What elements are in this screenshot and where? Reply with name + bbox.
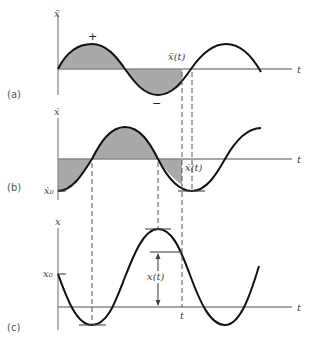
panel-b-initial-label: ẋ₀ xyxy=(44,185,54,196)
panel-b-y-axis-label: ẋ xyxy=(54,106,60,117)
panel-b-panel-label: (b) xyxy=(7,182,21,193)
panel-c: x(t) x t t x₀ (c) xyxy=(7,216,302,333)
panel-c-time-marker-label: t xyxy=(180,310,185,321)
panel-a-panel-label: (a) xyxy=(7,89,21,100)
panel-a-plus-sign: + xyxy=(88,30,97,43)
panel-c-panel-label: (c) xyxy=(7,322,20,333)
panel-c-curve-label: x(t) xyxy=(147,271,165,282)
panel-c-y-axis-label: x xyxy=(55,216,61,227)
panel-a: ẍ t + − ẍ(t) (a) xyxy=(7,8,302,110)
arrow-up-icon xyxy=(156,253,161,259)
panel-a-curve-label: ẍ(t) xyxy=(168,51,186,62)
panel-a-t-label: t xyxy=(297,64,302,75)
panel-b-t-label: t xyxy=(297,154,302,165)
arrow-down-icon xyxy=(156,300,161,306)
kinematics-figure: ẍ t + − ẍ(t) (a) ẋ t ẋ₀ ẋ(t) (b) x(t) x xyxy=(0,0,310,340)
panel-c-initial-label: x₀ xyxy=(43,268,53,279)
panel-a-minus-sign: − xyxy=(152,97,161,110)
panel-b-curve-label: ẋ(t) xyxy=(185,162,203,173)
dashed-guides xyxy=(92,72,192,325)
panel-a-y-axis-label: ẍ xyxy=(54,8,60,19)
panel-b: ẋ t ẋ₀ ẋ(t) (b) xyxy=(7,106,302,200)
panel-c-t-label: t xyxy=(297,302,302,313)
